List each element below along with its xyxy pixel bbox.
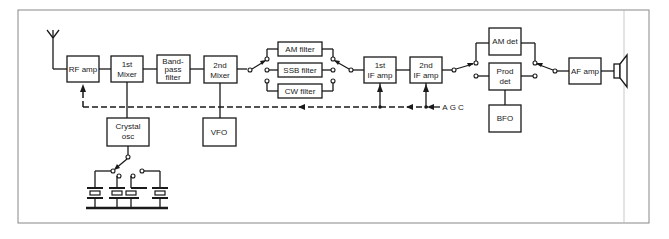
svg-text:Crystal: Crystal [116, 122, 141, 131]
receiver-block-diagram: RF amp 1st Mixer Band- pass filter 2nd M… [0, 0, 669, 239]
svg-text:Prod: Prod [497, 67, 514, 76]
svg-text:1st: 1st [122, 60, 133, 69]
first-mixer-block: 1st Mixer [111, 56, 143, 82]
svg-text:VFO: VFO [211, 128, 227, 137]
product-detector-block: Prod det [489, 63, 521, 90]
svg-text:IF amp: IF amp [368, 71, 393, 80]
agc-label: AGC [442, 103, 465, 112]
vfo-block: VFO [203, 118, 236, 146]
svg-text:AM det: AM det [492, 37, 518, 46]
am-filter-block: AM filter [278, 42, 322, 56]
svg-text:det: det [499, 77, 511, 86]
bandpass-filter-block: Band- pass filter [157, 55, 190, 83]
svg-text:SSB filter: SSB filter [283, 66, 317, 75]
svg-text:osc: osc [122, 132, 134, 141]
crystal-selector-switch [111, 146, 144, 178]
second-mixer-block: 2nd Mixer [204, 56, 237, 83]
svg-text:BFO: BFO [497, 114, 513, 123]
speaker-icon [614, 55, 627, 87]
svg-text:2nd: 2nd [213, 61, 226, 70]
af-amp-block: AF amp [569, 58, 601, 84]
svg-text:Mixer: Mixer [210, 71, 230, 80]
filter-input-switch [248, 57, 269, 83]
filter-output-switch [331, 57, 353, 83]
crystal-osc-block: Crystal osc [107, 118, 149, 146]
svg-text:Mixer: Mixer [117, 70, 137, 79]
svg-text:2nd: 2nd [419, 61, 432, 70]
crystal-bank-icon [86, 171, 168, 208]
cw-filter-block: CW filter [278, 84, 322, 98]
detector-output-switch [533, 61, 557, 78]
rf-amp-block: RF amp [67, 56, 99, 82]
ssb-filter-block: SSB filter [278, 63, 322, 77]
svg-text:CW filter: CW filter [285, 87, 316, 96]
am-detector-block: AM det [489, 28, 521, 55]
svg-text:IF amp: IF amp [414, 71, 439, 80]
svg-text:AF amp: AF amp [571, 67, 600, 76]
svg-text:filter: filter [165, 73, 180, 82]
first-if-amp-block: 1st IF amp [364, 57, 396, 83]
antenna-icon [47, 30, 67, 69]
svg-text:AM filter: AM filter [285, 45, 315, 54]
bfo-block: BFO [489, 105, 521, 132]
second-if-amp-block: 2nd IF amp [410, 57, 442, 83]
detector-input-switch [452, 61, 478, 78]
svg-text:1st: 1st [375, 61, 386, 70]
agc-line [80, 83, 440, 110]
svg-text:RF amp: RF amp [69, 65, 98, 74]
